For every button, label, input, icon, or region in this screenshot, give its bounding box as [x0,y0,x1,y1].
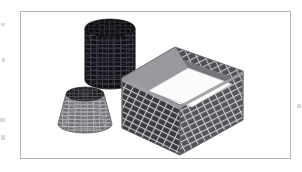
scan-speck [2,58,5,62]
scan-speck [0,118,5,122]
scan-speck [297,104,301,108]
object-cone-frustum [58,87,112,133]
scan-speck [1,135,5,140]
figure-canvas [0,0,302,172]
scan-speck [1,23,5,26]
cylinder-top-mesh [85,19,135,37]
frustum-top-mesh [66,87,104,101]
figure-container [0,0,302,172]
